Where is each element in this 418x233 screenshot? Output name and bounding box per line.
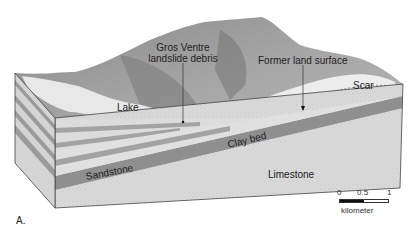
gros-ventre-label: Gros Ventre landslide debris [143,43,223,64]
scale-unit-label: kilometer [341,206,373,215]
scar-label: Scar [353,81,374,91]
gros-ventre-label-line2: landslide debris [143,54,223,64]
limestone-label: Limestone [268,170,314,180]
lake-label: Lake [117,103,139,113]
scale-bar: 0 0.5 1 kilometer [333,188,393,222]
panel-label: A. [16,216,25,226]
scale-tick-0: 0 [337,188,341,197]
gros-ventre-label-line1: Gros Ventre [143,43,223,53]
scale-tick-1: 1 [387,188,391,197]
former-land-surface-label: Former land surface [258,56,347,66]
scale-tick-half: 0.5 [357,188,368,197]
scale-bar-graphic [339,199,389,203]
